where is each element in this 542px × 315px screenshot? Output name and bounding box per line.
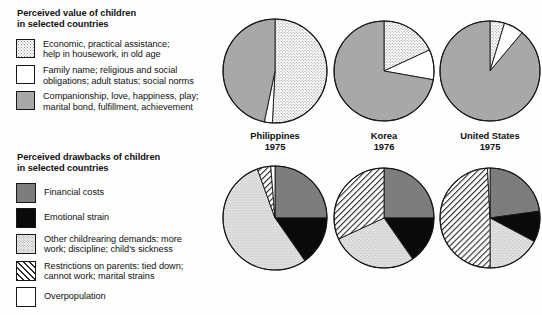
swatch-lightdots-icon — [16, 234, 36, 254]
swatch-dots-icon — [16, 39, 35, 58]
pie-slice — [275, 166, 327, 218]
swatch-white-icon — [16, 287, 36, 307]
swatch-black-icon — [16, 208, 36, 228]
legend-item-restrictions: Restrictions on parents: tied down; cann… — [16, 261, 183, 282]
pie-slice — [272, 19, 327, 123]
country-label-united-states: United States 1975 — [439, 130, 541, 152]
swatch-darkgray-icon — [16, 183, 36, 203]
legend-item-financial-costs: Financial costs — [16, 183, 183, 203]
pie-chart-value-united-states — [439, 20, 541, 122]
pie-slice — [223, 19, 275, 122]
legend-item-family-name: Family name; religious and social obliga… — [16, 65, 198, 86]
legend-label-childrearing-demands: Other childrearing demands: more work; d… — [44, 234, 182, 255]
legend-item-overpopulation: Overpopulation — [16, 287, 183, 307]
pie-slice — [440, 168, 490, 268]
legend-label-economic: Economic, practical assistance; help in … — [43, 39, 170, 60]
swatch-hatch-icon — [16, 261, 36, 281]
legend-perceived-value: Perceived value of children in selected … — [16, 8, 198, 117]
legend-item-economic: Economic, practical assistance; help in … — [16, 39, 198, 60]
legend-item-childrearing-demands: Other childrearing demands: more work; d… — [16, 234, 183, 255]
infographic-root: Perceived value of children in selected … — [0, 0, 542, 315]
legend-title-value: Perceived value of children in selected … — [17, 8, 198, 31]
pie-slice — [490, 168, 540, 218]
legend-item-companionship: Companionship, love, happiness, play; ma… — [16, 91, 198, 112]
legend-label-restrictions: Restrictions on parents: tied down; cann… — [44, 261, 183, 282]
swatch-white-icon — [16, 65, 35, 84]
legend-label-emotional-strain: Emotional strain — [44, 208, 109, 223]
legend-label-family-name: Family name; religious and social obliga… — [43, 65, 194, 86]
pie-chart-drawbacks-united-states — [439, 167, 541, 269]
legend-perceived-drawbacks: Perceived drawbacks of children in selec… — [16, 152, 183, 313]
pie-chart-drawbacks-philippines — [222, 165, 328, 271]
pie-slice — [384, 168, 434, 218]
legend-label-overpopulation: Overpopulation — [44, 287, 106, 302]
country-label-philippines: Philippines 1975 — [222, 130, 328, 152]
pie-chart-value-philippines — [222, 18, 328, 124]
legend-item-emotional-strain: Emotional strain — [16, 208, 183, 228]
legend-title-drawbacks: Perceived drawbacks of children in selec… — [17, 152, 183, 175]
pie-chart-value-korea — [333, 20, 435, 122]
legend-label-financial-costs: Financial costs — [44, 183, 104, 198]
pie-chart-drawbacks-korea — [333, 167, 435, 269]
country-label-korea: Korea 1976 — [333, 130, 435, 152]
legend-label-companionship: Companionship, love, happiness, play; ma… — [43, 91, 198, 112]
swatch-gray-icon — [16, 91, 35, 110]
